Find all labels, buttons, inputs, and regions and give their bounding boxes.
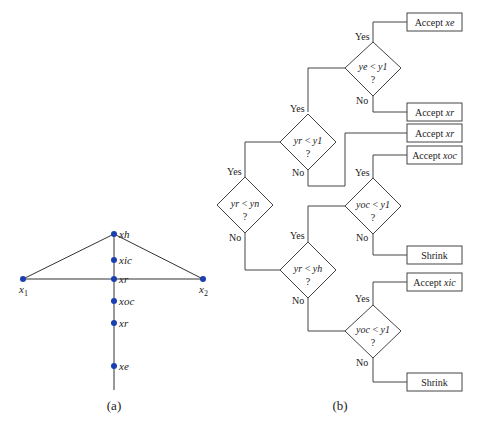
label-xoc: xoc — [118, 295, 134, 307]
svg-text:Accept xoc: Accept xoc — [412, 150, 457, 161]
outcome-accept-xr-1: Accept xr — [407, 103, 462, 121]
no-label: No — [356, 357, 368, 368]
svg-text:Shrink: Shrink — [421, 250, 448, 261]
svg-text:yoc < y1: yoc < y1 — [355, 199, 390, 210]
figure: xh xic xr xoc xr xe x1 x2 (a) — [0, 0, 478, 424]
yes-label: Yes — [290, 230, 305, 241]
outcome-shrink-1: Shrink — [407, 246, 462, 264]
left-edge-line — [23, 234, 114, 279]
point-xoc — [111, 298, 117, 304]
yes-label: Yes — [290, 103, 305, 114]
no-label: No — [292, 295, 304, 306]
point-xh — [111, 231, 117, 237]
label-x1: x1 — [18, 283, 28, 298]
decision-yoc-lt-y1-lower: yoc < y1 ? — [345, 305, 401, 358]
point-xr-bottom — [111, 320, 117, 326]
decision-yr-lt-y1: yr < y1 ? — [280, 114, 336, 170]
caption-b: (b) — [332, 398, 347, 413]
no-label: No — [229, 232, 241, 243]
svg-text:Accept xe: Accept xe — [415, 17, 455, 28]
no-label: No — [356, 232, 368, 243]
outcome-accept-xe: Accept xe — [407, 13, 462, 31]
decision-ye-lt-y1: ye < y1 ? — [345, 42, 401, 96]
point-xr-top — [111, 276, 117, 282]
svg-text:ye < y1: ye < y1 — [358, 61, 388, 72]
point-x2 — [200, 276, 206, 282]
outcome-accept-xr-2: Accept xr — [407, 124, 462, 142]
no-label: No — [356, 95, 368, 106]
outcome-shrink-2: Shrink — [407, 373, 462, 391]
outcome-boxes: Accept xe Accept xr Accept xr Accept xoc… — [407, 13, 462, 391]
svg-text:Accept xr: Accept xr — [415, 107, 454, 118]
yes-label: Yes — [355, 167, 370, 178]
svg-text:yr < yn: yr < yn — [230, 198, 259, 209]
panel-a-points — [20, 231, 206, 369]
svg-text:yr < yh: yr < yh — [293, 263, 322, 274]
svg-text:?: ? — [306, 276, 311, 287]
svg-text:?: ? — [371, 212, 376, 223]
point-xic — [111, 257, 117, 263]
point-xe — [111, 363, 117, 369]
svg-text:Accept xr: Accept xr — [415, 128, 454, 139]
yes-label: Yes — [355, 293, 370, 304]
svg-text:Shrink: Shrink — [421, 377, 448, 388]
label-xr-top: xr — [118, 273, 129, 285]
caption-a: (a) — [107, 398, 121, 413]
svg-text:yr < y1: yr < y1 — [293, 135, 322, 146]
decision-yr-lt-yh: yr < yh ? — [280, 242, 336, 298]
svg-text:?: ? — [243, 211, 248, 222]
svg-text:yoc < y1: yoc < y1 — [355, 324, 390, 335]
svg-text:?: ? — [306, 148, 311, 159]
decision-yr-lt-yn: yr < yn ? — [217, 177, 273, 233]
svg-text:?: ? — [371, 74, 376, 85]
svg-text:?: ? — [371, 337, 376, 348]
outcome-accept-xic: Accept xic — [407, 273, 462, 291]
decision-yoc-lt-y1-upper: yoc < y1 ? — [345, 178, 401, 234]
point-x1 — [20, 276, 26, 282]
svg-text:Accept xic: Accept xic — [413, 277, 456, 288]
yes-label: Yes — [355, 31, 370, 42]
outcome-accept-xoc: Accept xoc — [407, 146, 462, 164]
label-x2: x2 — [198, 283, 208, 298]
no-label: No — [292, 167, 304, 178]
yes-label: Yes — [227, 166, 242, 177]
label-xh: xh — [118, 228, 130, 240]
label-xr-bottom: xr — [118, 317, 129, 329]
label-xic: xic — [118, 254, 132, 266]
label-xe: xe — [118, 360, 129, 372]
